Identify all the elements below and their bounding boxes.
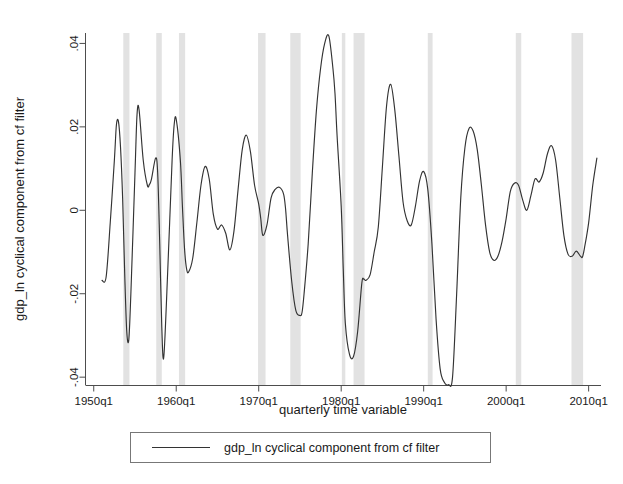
recession-band [342,33,345,386]
chart-figure: .04.020-.02-.04 1950q11960q11970q11980q1… [0,0,623,484]
legend: gdp_ln cyclical component from cf filter [131,433,491,463]
line-chart-canvas: .04.020-.02-.04 1950q11960q11970q11980q1… [0,0,623,484]
y-axis-tick-label: -.02 [68,284,80,304]
y-axis-tick-label: -.04 [68,367,80,387]
y-axis-tick-label: .02 [68,119,80,135]
y-axis-ticks-group: .04.020-.02-.04 [68,35,86,387]
recession-band [571,33,583,386]
legend-entry-label: gdp_ln cyclical component from cf filter [224,441,439,455]
x-axis-tick-label: 1970q1 [240,395,278,407]
recession-bands-group [123,33,583,386]
recession-band [516,33,521,386]
x-axis-tick-label: 2000q1 [487,395,525,407]
y-axis-title: gdp_ln cyclical component from cf filter [12,96,27,321]
x-axis-tick-label: 1960q1 [157,395,195,407]
recession-band [354,33,365,386]
x-axis-tick-label: 1990q1 [404,395,442,407]
x-axis-tick-label: 2010q1 [569,395,607,407]
y-axis-tick-label: 0 [68,207,80,213]
y-axis-tick-label: .04 [68,35,80,52]
x-axis-title: quarterly time variable [279,402,407,417]
series-line-gdp-ln-cyclical-component [102,35,597,387]
recession-band [428,33,433,386]
x-axis-tick-label: 1950q1 [75,395,113,407]
recession-band [290,33,300,386]
